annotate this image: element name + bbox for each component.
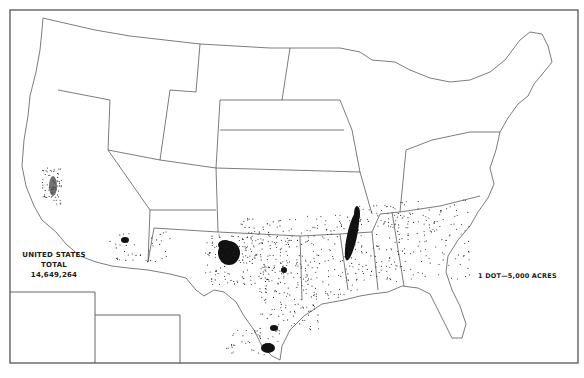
total-subtitle: TOTAL [22,260,86,270]
alaska-inset-frame [10,292,95,363]
dot-legend: 1 DOT—5,000 ACRES [478,272,578,280]
scatter-layer [42,168,470,356]
us-total-label: UNITED STATES TOTAL 14,649,264 [22,250,86,280]
hawaii-inset-frame [95,315,180,363]
total-value: 14,649,264 [22,270,86,280]
dot-clusters [49,176,362,353]
total-title: UNITED STATES [22,250,86,260]
us-outline [22,18,552,360]
dot-density-map [0,0,584,378]
